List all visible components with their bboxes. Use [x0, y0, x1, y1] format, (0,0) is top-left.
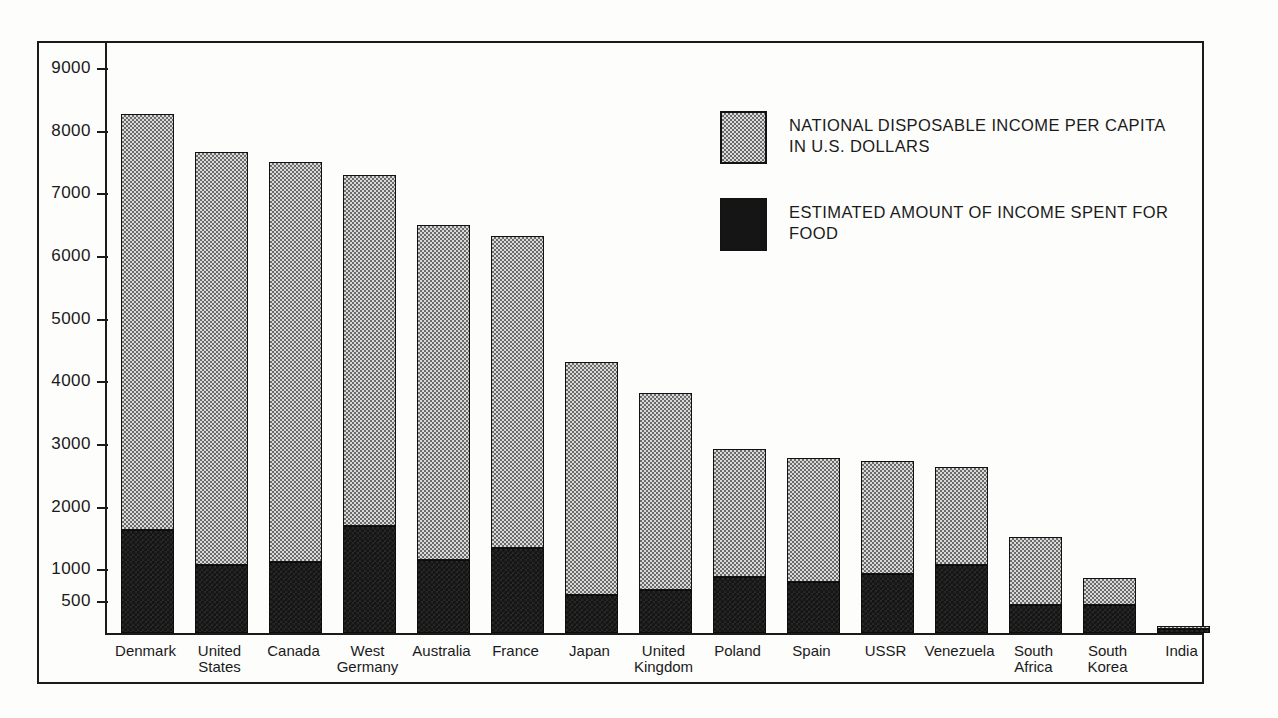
bar-segment-income[interactable] [1009, 537, 1062, 605]
bar-segment-income[interactable] [787, 458, 840, 582]
bar-segment-food[interactable] [787, 582, 840, 633]
bar-segment-food[interactable] [639, 590, 692, 633]
x-axis-label: South Africa [992, 643, 1076, 675]
bar-segment-food[interactable] [1157, 629, 1210, 633]
x-axis-label: India [1140, 643, 1224, 659]
bar-segment-food[interactable] [935, 565, 988, 633]
x-axis-label: Australia [400, 643, 484, 659]
y-axis-tick-label: 2000 [51, 497, 91, 517]
bar-segment-food[interactable] [565, 595, 618, 633]
legend-label-income: NATIONAL DISPOSABLE INCOME PER CAPITA IN… [789, 111, 1166, 157]
x-axis-label: United States [178, 643, 262, 675]
y-axis-tick-label: 1000 [51, 559, 91, 579]
chart-legend: NATIONAL DISPOSABLE INCOME PER CAPITA IN… [720, 111, 1190, 285]
bar-segment-income[interactable] [343, 175, 396, 526]
bar-segment-income[interactable] [861, 461, 914, 574]
y-axis-tick-label: 6000 [51, 246, 91, 266]
legend-swatch-food [720, 198, 767, 251]
y-axis-tick-mark [97, 193, 108, 195]
bar-segment-income[interactable] [195, 152, 248, 566]
bar-segment-income[interactable] [639, 393, 692, 590]
x-axis-label: Japan [548, 643, 632, 659]
bar-stack[interactable] [565, 362, 618, 633]
x-axis-label: Venezuela [918, 643, 1002, 659]
bar-stack[interactable] [1083, 578, 1136, 633]
bar-segment-income[interactable] [121, 114, 174, 530]
legend-swatch-income [720, 111, 767, 164]
y-axis-tick-mark [97, 381, 108, 383]
bar-segment-food[interactable] [195, 565, 248, 633]
x-axis-label: United Kingdom [622, 643, 706, 675]
y-axis-tick-mark [97, 569, 108, 571]
y-axis-tick-label: 4000 [51, 371, 91, 391]
bar-stack[interactable] [343, 175, 396, 633]
x-axis-label: Poland [696, 643, 780, 659]
bar-stack[interactable] [713, 449, 766, 633]
x-axis-label: France [474, 643, 558, 659]
bar-segment-food[interactable] [491, 548, 544, 633]
bar-segment-income[interactable] [935, 467, 988, 565]
bar-segment-income[interactable] [417, 225, 470, 560]
y-axis-tick-label: 3000 [51, 434, 91, 454]
bar-stack[interactable] [935, 467, 988, 633]
bar-stack[interactable] [1157, 625, 1210, 633]
y-axis-tick-mark [97, 131, 108, 133]
x-axis-label: South Korea [1066, 643, 1150, 675]
x-axis-label: West Germany [326, 643, 410, 675]
y-axis-tick-mark [97, 507, 108, 509]
bar-segment-food[interactable] [861, 574, 914, 633]
bar-segment-income[interactable] [269, 162, 322, 562]
y-axis-tick-mark [97, 601, 108, 603]
bar-stack[interactable] [639, 393, 692, 633]
x-axis-label: Denmark [104, 643, 188, 659]
bar-stack[interactable] [787, 458, 840, 633]
bar-segment-food[interactable] [417, 560, 470, 633]
bar-stack[interactable] [861, 461, 914, 633]
x-axis-label: USSR [844, 643, 928, 659]
bar-segment-food[interactable] [1083, 605, 1136, 633]
bar-segment-income[interactable] [1083, 578, 1136, 605]
bar-stack[interactable] [491, 236, 544, 633]
bar-segment-income[interactable] [713, 449, 766, 577]
bar-segment-income[interactable] [565, 362, 618, 595]
x-axis-label: Canada [252, 643, 336, 659]
bar-segment-food[interactable] [269, 562, 322, 633]
legend-item-income: NATIONAL DISPOSABLE INCOME PER CAPITA IN… [720, 111, 1190, 164]
chart-frame: 900080007000600050004000300020001000500 … [37, 41, 1204, 684]
legend-label-food: ESTIMATED AMOUNT OF INCOME SPENT FOR FOO… [789, 198, 1168, 244]
bar-stack[interactable] [1009, 537, 1062, 634]
bar-segment-food[interactable] [343, 526, 396, 633]
bar-stack[interactable] [195, 152, 248, 633]
y-axis-tick-label: 8000 [51, 121, 91, 141]
bar-segment-food[interactable] [121, 530, 174, 633]
y-axis-tick-mark [97, 256, 108, 258]
y-axis-tick-label: 5000 [51, 309, 91, 329]
y-axis-tick-mark [97, 319, 108, 321]
y-axis-tick-label: 500 [61, 591, 91, 611]
bar-segment-income[interactable] [491, 236, 544, 547]
legend-item-food: ESTIMATED AMOUNT OF INCOME SPENT FOR FOO… [720, 198, 1190, 251]
x-axis-label: Spain [770, 643, 854, 659]
bar-stack[interactable] [269, 162, 322, 633]
bar-segment-food[interactable] [713, 577, 766, 633]
bar-stack[interactable] [417, 225, 470, 633]
bar-stack[interactable] [121, 114, 174, 634]
y-axis-tick-label: 9000 [51, 58, 91, 78]
bar-segment-food[interactable] [1009, 605, 1062, 633]
y-axis-tick-mark [97, 444, 108, 446]
y-axis-tick-label: 7000 [51, 183, 91, 203]
y-axis-tick-mark [97, 68, 108, 70]
